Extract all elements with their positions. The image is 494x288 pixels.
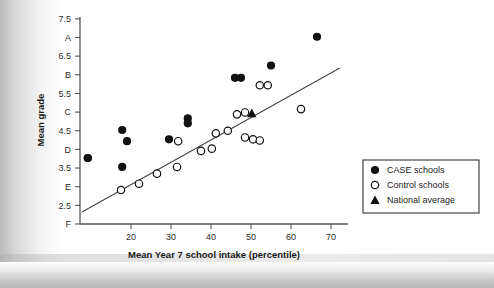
case-school-point xyxy=(123,137,131,145)
y-tick-label: D xyxy=(65,145,72,155)
control-school-point xyxy=(233,111,240,118)
control-school-point xyxy=(173,163,180,170)
control-school-point xyxy=(153,170,160,177)
legend-item-label: Control schools xyxy=(387,180,450,190)
x-tick-label: 60 xyxy=(286,232,296,242)
y-tick-label: B xyxy=(65,70,71,80)
control-school-point xyxy=(256,82,263,89)
case-school-point xyxy=(118,126,126,134)
x-tick-label: 50 xyxy=(246,232,256,242)
x-tick-label: 40 xyxy=(206,232,216,242)
data-points xyxy=(84,33,321,194)
case-school-point xyxy=(84,154,92,162)
y-tick-label: 7.5 xyxy=(58,14,71,24)
control-school-point xyxy=(241,134,248,141)
control-school-point xyxy=(241,109,248,116)
case-school-point xyxy=(313,33,321,41)
y-tick-label: F xyxy=(66,219,72,229)
x-axis-title: Mean Year 7 school intake (percentile) xyxy=(128,249,300,260)
legend-item-label: National average xyxy=(387,195,455,205)
x-tick-label: 20 xyxy=(126,232,136,242)
control-school-point xyxy=(117,186,124,193)
control-school-point xyxy=(249,136,256,143)
control-school-point xyxy=(175,137,182,144)
control-school-point xyxy=(197,147,204,154)
chart-legend: CASE schoolsControl schoolsNational aver… xyxy=(363,160,479,213)
control-school-point xyxy=(264,82,271,89)
control-school-point xyxy=(135,180,142,187)
control-school-point xyxy=(212,130,219,137)
control-school-point xyxy=(297,105,304,112)
case-school-point xyxy=(267,61,275,69)
case-school-point xyxy=(184,119,192,127)
case-school-point xyxy=(165,135,173,143)
y-tick-label: C xyxy=(65,107,72,117)
y-tick-label: 5.5 xyxy=(58,89,71,99)
y-tick-label: 3.5 xyxy=(58,163,71,173)
legend-item-label: CASE schools xyxy=(387,165,445,175)
y-tick-label: A xyxy=(65,33,71,43)
case-school-point xyxy=(118,163,126,171)
scatter-chart: 7.5A6.5B5.5C4.5D3.5E2.5F 203040506070 Me… xyxy=(0,0,494,288)
y-axis-title: Mean grade xyxy=(35,94,46,147)
y-tick-label: 2.5 xyxy=(58,201,71,211)
x-tick-label: 70 xyxy=(326,232,336,242)
x-axis-ticks: 203040506070 xyxy=(126,224,336,242)
scanned-page: 7.5A6.5B5.5C4.5D3.5E2.5F 203040506070 Me… xyxy=(0,0,494,288)
y-tick-label: 6.5 xyxy=(58,51,71,61)
y-axis-ticks: 7.5A6.5B5.5C4.5D3.5E2.5F xyxy=(58,14,80,229)
control-school-point xyxy=(208,145,215,152)
control-school-point xyxy=(256,137,263,144)
y-tick-label: 4.5 xyxy=(58,126,71,136)
legend-open-circle-icon xyxy=(371,181,378,188)
y-tick-label: E xyxy=(65,182,71,192)
case-school-point xyxy=(237,74,245,82)
x-tick-label: 30 xyxy=(166,232,176,242)
control-school-point xyxy=(224,127,231,134)
legend-filled-circle-icon xyxy=(371,166,379,174)
